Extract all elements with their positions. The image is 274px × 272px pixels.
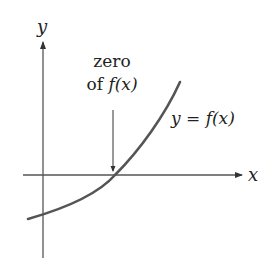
annotation-of-fx-text: of f(x): [86, 74, 137, 94]
curve-label-equals: =: [181, 108, 206, 128]
curve-label-rhs: f(x): [204, 108, 235, 128]
x-axis-label: x: [248, 164, 258, 185]
curve-label: y = f(x): [170, 108, 235, 128]
zero-of-function-diagram: y x zero of f(x) y = f(x): [0, 0, 274, 272]
curve-label-lhs: y: [170, 108, 181, 128]
annotation-zero-text: zero: [93, 51, 130, 71]
annotation-of-text: of: [86, 74, 108, 94]
y-axis-label: y: [36, 16, 48, 37]
annotation-fx-text: f(x): [106, 74, 137, 94]
function-curve: [28, 82, 180, 219]
